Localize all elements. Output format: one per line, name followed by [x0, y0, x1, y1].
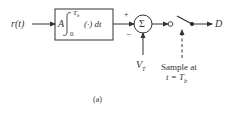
- summer-plus-sign: +: [124, 11, 129, 19]
- integrator-integrand: (·) dt: [84, 20, 102, 29]
- summer-minus-sign: −: [126, 30, 131, 39]
- sampler-label-line1: Sample at: [161, 63, 197, 72]
- block-diagram: [0, 0, 237, 124]
- summer-symbol: Σ: [139, 19, 145, 29]
- integrator-upper-limit: Tb: [73, 10, 79, 18]
- switch-blade: [177, 16, 192, 24]
- integrator-lower-limit: 0: [70, 31, 74, 38]
- switch-open-terminal: [168, 22, 173, 27]
- threshold-label: VT: [136, 60, 145, 72]
- sampler-label-line2: t = Tb: [166, 73, 187, 84]
- integrator-gain: A: [58, 19, 64, 29]
- figure-caption: (a): [93, 96, 102, 104]
- output-label: D: [215, 19, 222, 29]
- input-label: r(t): [11, 19, 24, 29]
